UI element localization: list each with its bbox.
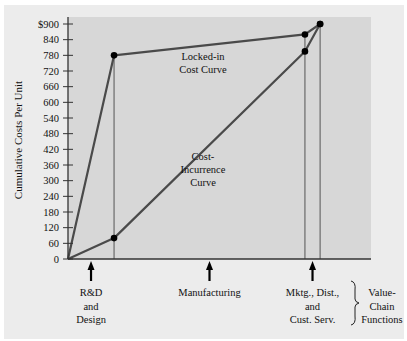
y-tick-label: 360 bbox=[43, 160, 59, 171]
series-label: Incurrence bbox=[181, 164, 226, 175]
brace-label-line: Functions bbox=[361, 314, 402, 325]
stage-label: and bbox=[83, 301, 99, 312]
y-tick-label: 780 bbox=[43, 50, 59, 61]
y-tick-label: 720 bbox=[43, 66, 59, 77]
y-axis-label: Cumulative Costs Per Unit bbox=[12, 81, 24, 199]
y-tick-label: 600 bbox=[43, 97, 59, 108]
series-label: Cost Curve bbox=[179, 64, 227, 75]
y-tick-label: 300 bbox=[43, 175, 59, 186]
y-tick-label: $900 bbox=[38, 19, 59, 30]
y-tick-label: 120 bbox=[43, 222, 59, 233]
data-point bbox=[317, 21, 324, 28]
series-label: Curve bbox=[190, 177, 216, 188]
series-label: Locked-in bbox=[181, 51, 225, 62]
stage-label: Manufacturing bbox=[178, 287, 241, 298]
brace-label-line: Chain bbox=[369, 301, 395, 312]
y-tick-label: 840 bbox=[43, 34, 59, 45]
y-tick-label: 240 bbox=[43, 191, 59, 202]
y-tick-label: 60 bbox=[49, 238, 60, 249]
brace-label-line: Value- bbox=[368, 287, 396, 298]
y-tick-label: 480 bbox=[43, 128, 59, 139]
stage-label: R&D bbox=[80, 287, 103, 298]
series-label: Cost- bbox=[192, 151, 215, 162]
y-tick-label: 0 bbox=[54, 254, 59, 265]
data-point bbox=[302, 48, 309, 55]
y-tick-label: 180 bbox=[43, 207, 59, 218]
cost-curves-chart: 0601201802403003604204805406006607207808… bbox=[0, 0, 407, 341]
stage-label: Mktg., Dist., bbox=[286, 287, 339, 298]
data-point bbox=[111, 52, 118, 59]
data-point bbox=[302, 31, 309, 38]
data-point bbox=[111, 235, 118, 242]
stage-label: Cust. Serv. bbox=[290, 314, 336, 325]
y-tick-label: 660 bbox=[43, 81, 59, 92]
stage-label: Design bbox=[76, 314, 106, 325]
y-tick-label: 420 bbox=[43, 144, 59, 155]
stage-label: and bbox=[305, 301, 321, 312]
y-tick-label: 540 bbox=[43, 113, 59, 124]
